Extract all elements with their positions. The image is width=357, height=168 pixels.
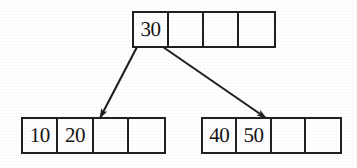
root-cell-3 — [239, 13, 274, 46]
left-child-cell-3 — [129, 119, 164, 152]
right-child-cell-2 — [272, 119, 306, 152]
root-node: 30 — [132, 11, 276, 48]
left-child-cell-0: 10 — [23, 119, 58, 152]
diagram-canvas: 30 10 20 40 50 — [0, 0, 357, 168]
right-child-cell-1: 50 — [237, 119, 271, 152]
right-child-cell-3 — [306, 119, 340, 152]
left-child-node: 10 20 — [21, 117, 166, 154]
left-child-cell-2 — [94, 119, 129, 152]
right-child-cell-0: 40 — [203, 119, 237, 152]
right-child-node: 40 50 — [201, 117, 342, 154]
edge-root-to-right-child — [163, 47, 266, 118]
edge-root-to-left-child — [100, 47, 137, 118]
root-cell-1 — [169, 13, 204, 46]
root-cell-0: 30 — [134, 13, 169, 46]
root-cell-2 — [204, 13, 239, 46]
left-child-cell-1: 20 — [58, 119, 93, 152]
